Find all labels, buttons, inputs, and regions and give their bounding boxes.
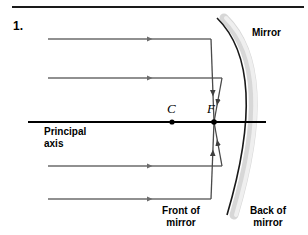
focal-point-label: F [207,101,215,117]
mirror-label: Mirror [252,27,281,39]
focal-point [211,119,217,125]
center-of-curvature-point [169,119,174,124]
reflected-ray-2 [214,78,222,122]
back-of-mirror-label: Back of mirror [237,205,299,228]
front-of-mirror-label: Front of mirror [150,205,212,228]
reflected-ray-3 [214,122,222,166]
ray-diagram-figure: 1. [0,0,308,235]
principal-axis-label: Principal axis [44,126,86,149]
mirror-body [224,18,253,215]
center-of-curvature-label: C [167,101,176,117]
reflected-ray-4 [211,122,214,199]
